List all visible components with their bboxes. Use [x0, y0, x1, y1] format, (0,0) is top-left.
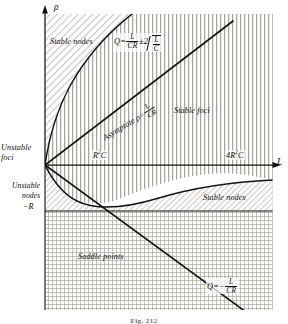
equation-parabola-fraction: L CR — [126, 33, 138, 49]
tick-label-minus-r: −R — [23, 203, 34, 212]
equation-parabola-radical-den: C — [153, 44, 160, 53]
equation-saddle-num: L — [225, 278, 237, 286]
equation-saddle-eq: =− — [213, 282, 225, 291]
axis-label-rho: ρ — [54, 3, 59, 13]
figure-stability-diagram: ρ L −R R2C 4R2C Stable nodes Stable foci… — [0, 0, 288, 324]
equation-parabola-radical-num: L — [153, 36, 160, 44]
tick-label-r2c-text: R2C — [93, 151, 106, 160]
label-saddle-points: Saddle points — [78, 253, 124, 262]
equation-parabola-num: L — [126, 33, 138, 41]
tick-label-r2c: R2C — [92, 150, 107, 160]
equation-parabola-radical: L C — [148, 35, 161, 52]
label-unstable-nodes-line1: Unstable — [12, 182, 40, 190]
equation-saddle-den: CR — [225, 286, 237, 295]
equation-parabola-den: CR — [126, 41, 138, 50]
equation-parabola: Q= L CR ±2 L C — [113, 33, 162, 52]
axis-y-arrowhead — [42, 5, 48, 14]
label-unstable-nodes-line2: nodes — [22, 192, 40, 200]
equation-parabola-radical-fraction: L C — [153, 36, 160, 52]
equation-saddle-line: Q=− L CR — [206, 278, 239, 294]
tick-label-4r2c: 4R2C — [225, 150, 245, 160]
label-unstable-foci-line1: Unstable — [1, 144, 31, 153]
equation-parabola-radicand: L C — [152, 35, 160, 52]
label-stable-nodes-lower: Stable nodes — [203, 194, 246, 203]
figure-caption: Fig. 212 — [0, 317, 288, 324]
axis-label-l: L — [277, 158, 282, 168]
equation-parabola-eq: = — [120, 37, 126, 46]
label-stable-nodes-upper: Stable nodes — [50, 38, 93, 47]
equation-saddle-fraction: L CR — [225, 278, 237, 294]
label-stable-foci: Stable foci — [174, 107, 210, 116]
label-unstable-foci-line2: foci — [1, 154, 14, 163]
tick-label-4r2c-text: 4R2C — [226, 151, 244, 160]
